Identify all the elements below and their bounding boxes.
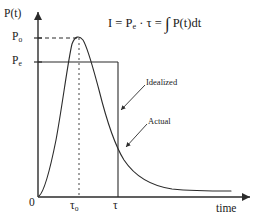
origin-label: 0 [29, 197, 35, 209]
pulse-power-figure: P(t) Po Pe 0 τo τ time I = Pe · τ = ∫ P(… [0, 0, 264, 223]
y-tick-label-pe-sub: e [18, 59, 21, 68]
actual-leader-line [126, 124, 147, 147]
equation-lhs: I [108, 16, 112, 30]
actual-pulse-curve [39, 37, 231, 196]
equation-integrand: P(t)dt [173, 16, 201, 30]
x-tick-label-tau: τ [113, 200, 118, 212]
equation-equals-1: = [115, 16, 122, 30]
plot-canvas [0, 0, 264, 223]
y-axis-title: P(t) [4, 8, 21, 20]
x-tick-label-tau0: τo [70, 200, 78, 213]
y-tick-label-p0: Po [12, 31, 22, 44]
x-tick-label-tau-main: τ [113, 199, 118, 211]
idealized-leader-line [121, 85, 145, 110]
impulse-equation: I = Pe · τ = ∫ P(t)dt [108, 15, 201, 32]
actual-annotation-label: Actual [148, 117, 171, 126]
x-axis-title: time [216, 203, 236, 215]
equation-tau: τ [147, 16, 152, 30]
equation-pe-sub: e [132, 22, 136, 31]
x-tick-label-tau0-sub: o [75, 204, 79, 213]
y-tick-label-pe: Pe [12, 55, 22, 68]
equation-integral-icon: ∫ [165, 14, 170, 33]
y-tick-label-p0-sub: o [18, 35, 22, 44]
idealized-annotation-label: Idealized [146, 78, 177, 87]
equation-equals-2: = [155, 16, 162, 30]
equation-dot: · [139, 16, 143, 30]
